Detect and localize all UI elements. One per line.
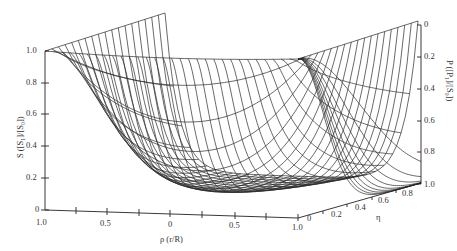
mesh-line [58, 47, 311, 122]
mesh-line [298, 21, 418, 59]
left-tick-0.4: 0.4 [26, 141, 37, 150]
mesh-line [298, 58, 421, 162]
mesh-line [188, 59, 308, 193]
rho-tick-1.0-left: 1.0 [36, 218, 47, 227]
left-axis-title: S ([S₁]/[S₀]) [15, 116, 25, 158]
mesh-line [113, 56, 233, 182]
rho-tick-0.5-right: 0.5 [229, 221, 240, 230]
eta-tick-0.2: 0.2 [331, 210, 342, 219]
left-tick-0.8: 0.8 [26, 78, 37, 87]
left-tick-0: 0 [35, 205, 39, 214]
eta-tick-0: 0 [307, 214, 311, 223]
eta-axis-title: η [376, 212, 380, 222]
mesh-line [45, 13, 165, 51]
eta-tick-0.4: 0.4 [355, 203, 366, 212]
mesh-line [298, 59, 421, 191]
eta-tick-0.8: 0.8 [402, 189, 413, 198]
eta-tick-0.6: 0.6 [378, 196, 389, 205]
left-tick-0.6: 0.6 [26, 109, 37, 118]
mesh-line [145, 19, 398, 183]
rho-tick-1.0-right: 1.0 [292, 223, 303, 232]
rho-tick-0: 0 [168, 220, 172, 229]
right-tick-0.6: 0.6 [424, 116, 435, 125]
rho-axis-title: ρ (r/R) [160, 234, 183, 244]
right-tick-0.4: 0.4 [424, 84, 435, 93]
left-tick-0.2: 0.2 [26, 173, 37, 182]
mesh-line [158, 15, 411, 179]
mesh-line [247, 59, 367, 178]
mesh-line [239, 59, 359, 182]
mesh-line [205, 59, 325, 191]
right-tick-0.8: 0.8 [424, 147, 435, 156]
right-tick-0: 0 [424, 20, 428, 29]
wireframe-surface [0, 0, 457, 251]
surface-plot-figure: 1.0 0.8 0.6 0.4 0.2 0 S ([S₁]/[S₀]) 1.0 … [0, 0, 457, 251]
right-tick-0.2: 0.2 [424, 52, 435, 61]
eta-tick-1.0: 1.0 [424, 180, 435, 189]
mesh-line [104, 55, 224, 178]
mesh-line [65, 45, 318, 152]
mesh-line [129, 56, 249, 186]
rho-tick-0.5-left: 0.5 [100, 219, 111, 228]
left-tick-1.0: 1.0 [26, 46, 37, 55]
mesh-line [96, 55, 216, 174]
rho-axis [45, 210, 298, 218]
mesh-line [78, 40, 331, 182]
right-axis-title: P ([P₁]/[S₀]) [445, 60, 455, 101]
